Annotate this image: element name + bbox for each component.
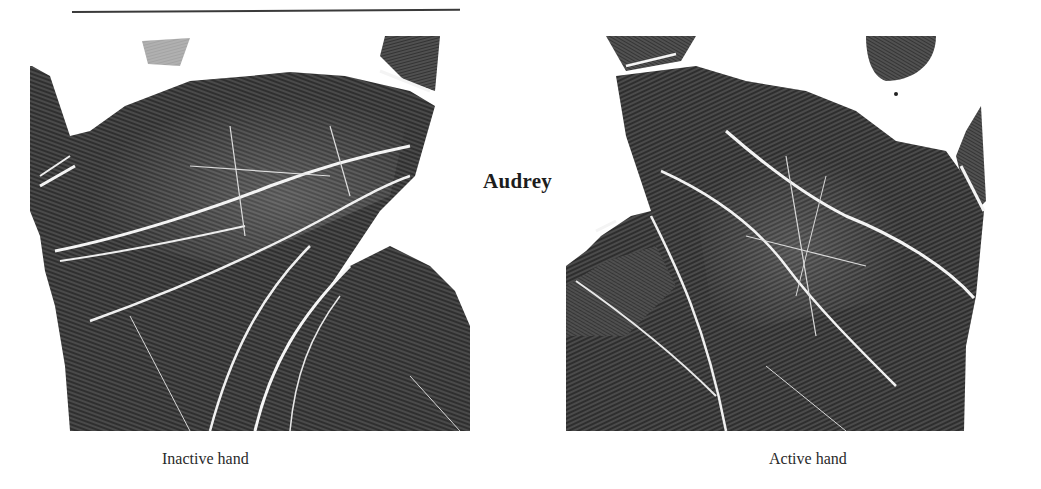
caption-active-hand: Active hand — [769, 450, 847, 468]
caption-inactive-hand: Inactive hand — [162, 450, 249, 468]
top-rule — [72, 9, 460, 13]
palm-print-image — [30, 36, 480, 436]
active-hand-print — [566, 36, 1016, 436]
inactive-hand-print — [30, 36, 480, 436]
palm-print-image — [566, 36, 1016, 436]
subject-name: Audrey — [483, 169, 552, 194]
